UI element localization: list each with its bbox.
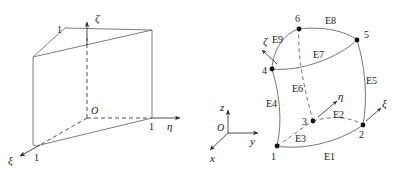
- edge-label-E2: E2: [333, 109, 344, 120]
- node-3-marker: [311, 119, 316, 124]
- axis-zeta-local: [262, 50, 277, 64]
- node-label-3: 3: [302, 116, 307, 127]
- node-6-marker: [297, 27, 302, 32]
- axis-x-global: [210, 133, 228, 150]
- axis-label-eta-local: η: [338, 90, 343, 102]
- edge-label-E9: E9: [272, 34, 283, 45]
- node-2-marker: [361, 123, 366, 128]
- node-label-2: 2: [359, 129, 364, 140]
- edge-label-E7: E7: [313, 49, 324, 60]
- edge-E6-path: [299, 29, 313, 121]
- edge-E1-path: [277, 125, 363, 147]
- node-label-4: 4: [262, 65, 267, 76]
- node-label-1: 1: [271, 151, 276, 162]
- axis-label-y-global: y: [249, 135, 255, 147]
- mapped-element-solid-edges: [272, 28, 365, 147]
- edge-label-E4: E4: [266, 98, 277, 109]
- node-label-5: 5: [364, 29, 369, 40]
- axis-label-x-global: x: [209, 152, 215, 164]
- edge-label-E3: E3: [295, 133, 306, 144]
- node-4-marker: [270, 67, 275, 72]
- edge-E5-path: [357, 40, 365, 125]
- axis-xi-local: [366, 108, 381, 121]
- mapped-element-hidden-edges: [277, 29, 363, 146]
- node-label-6: 6: [295, 13, 300, 24]
- edge-label-E6: E6: [292, 83, 303, 94]
- figure-root: ζ 1 η 1 ξ 1 O: [0, 0, 402, 173]
- mapped-element-panel: 1 2 3 4 5 6 E1 E2 E3 E4 E5 E6 E7 E8 E9 ζ…: [0, 0, 402, 173]
- origin-label-global: O: [217, 122, 224, 133]
- edge-label-E5: E5: [366, 75, 377, 86]
- axis-label-z-global: z: [219, 101, 225, 113]
- edge-label-E8: E8: [325, 15, 336, 26]
- edge-E8-path: [299, 28, 357, 40]
- node-1-marker: [275, 144, 280, 149]
- node-5-marker: [355, 38, 360, 43]
- edge-label-E1: E1: [324, 151, 335, 162]
- axis-label-xi-local: ξ: [382, 97, 387, 110]
- axis-label-zeta-local: ζ: [263, 35, 269, 48]
